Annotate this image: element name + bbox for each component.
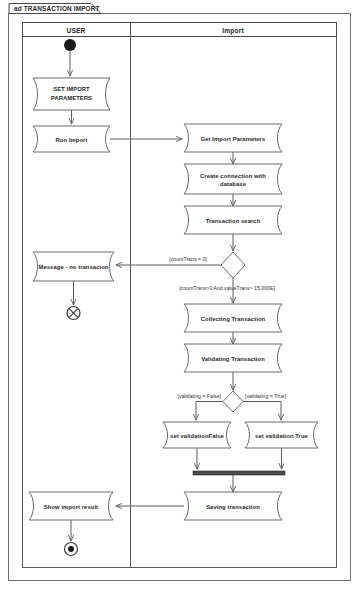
frame-title-label: ad TRANSACTION IMPORT [14,5,100,12]
guard-validating-true: [validating = True] [245,393,287,399]
activity-set-validation-true-label: set validation True [255,433,308,439]
guard-count-trans-positive: [countTrans>0 And valueTrans> 15.000E] [179,285,275,291]
swimlane-title-user: USER [66,27,85,34]
activity-collecting-transaction-label: Collecting Transaction [201,316,266,322]
initial-node[interactable] [64,39,76,51]
activity-show-import-result-label: Show import result [44,504,98,510]
activity-create-connection-line2: database [220,181,247,187]
activity-saving-transaction-label: Saving transaction [206,504,260,510]
activity-set-validation-false-label: set validationFalse [170,433,224,439]
guard-validating-false: [validating = False] [178,393,222,399]
activity-run-import-label: Run Import [56,137,88,143]
activity-set-import-parameters-line2: PARAMETERS [51,95,92,101]
activity-get-import-parameters-label: Get Import Parameters [201,136,266,142]
activity-message-no-transaction-label: Message - no transacion [39,264,109,270]
activity-validating-transaction-label: Validating Transaction [201,356,265,362]
join-node-bar[interactable] [193,471,285,475]
activity-create-connection-line1: Create connection with [200,173,266,179]
guard-count-trans-zero: [countTrans = 0] [169,256,207,262]
activity-transaction-search-label: Transaction search [206,218,261,224]
activity-create-connection[interactable] [184,164,282,194]
activity-final-inner-dot [68,546,74,552]
swimlane-title-import: Import [222,27,244,35]
activity-set-import-parameters-line1: SET IMPORT [53,86,90,92]
uml-activity-diagram: ad TRANSACTION IMPORT USER Import SET IM… [0,0,359,594]
activity-diagram-canvas: ad TRANSACTION IMPORT USER Import SET IM… [0,0,359,594]
